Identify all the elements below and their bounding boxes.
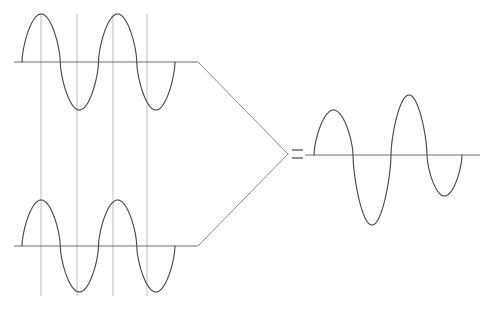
output-wave-group [305,95,480,225]
combining-arrow [198,62,288,246]
figure-canvas: Waveform superposition diagram [0,0,496,311]
alignment-guide-group [41,14,147,296]
combining-arrow-lower-line [198,154,288,246]
combining-arrow-upper-line [198,62,288,154]
equals-sign [292,150,303,158]
waveform-superposition-figure: Waveform superposition diagram [0,0,496,311]
output-wave-curve [314,95,462,225]
